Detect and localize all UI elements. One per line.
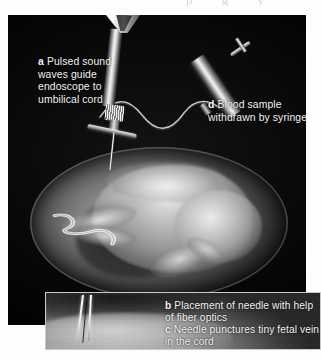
- callout-b-marker: b: [165, 300, 171, 311]
- callout-d-marker: d: [208, 99, 214, 110]
- callout-c: cNeedle punctures tiny fetal vein in the…: [165, 324, 320, 349]
- page-top-text-fragment: p g y: [186, 0, 316, 6]
- callout-d: dBlood sample withdrawn by syringe: [208, 99, 306, 124]
- callout-a-text: Pulsed sound waves guide endoscope to um…: [38, 56, 111, 105]
- amniotic-sac-rim: [30, 147, 288, 299]
- callout-c-marker: c: [165, 324, 171, 335]
- callout-a-marker: a: [38, 56, 44, 67]
- callout-a: aPulsed sound waves guide endoscope to u…: [38, 56, 142, 106]
- callout-d-text: Blood sample withdrawn by syringe: [208, 99, 306, 123]
- fetus-in-amniotic-sac: [30, 147, 288, 299]
- figure-page: p g y: [0, 0, 321, 361]
- callout-c-text: Needle punctures tiny fetal vein in the …: [165, 324, 319, 347]
- ultrasound-inset-image: bPlacement of needle with help of fiber …: [45, 292, 321, 350]
- callout-b-text: Placement of needle with help of fiber o…: [165, 300, 313, 323]
- callout-b: bPlacement of needle with help of fiber …: [165, 300, 320, 325]
- main-illustration-panel: aPulsed sound waves guide endoscope to u…: [8, 15, 306, 325]
